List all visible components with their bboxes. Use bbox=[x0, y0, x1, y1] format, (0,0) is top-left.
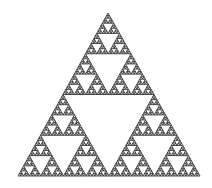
fractal-path bbox=[18, 13, 200, 176]
sierpinski-triangle bbox=[0, 0, 212, 188]
